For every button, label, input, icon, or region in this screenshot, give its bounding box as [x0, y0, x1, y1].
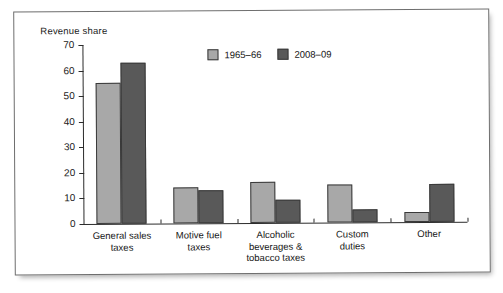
y-axis-tick-label: 10 [53, 194, 75, 204]
y-axis-tick-label: 60 [53, 66, 75, 76]
y-axis-line [82, 45, 84, 224]
x-axis-end-tick [467, 218, 468, 222]
y-axis-tick-mark [79, 71, 84, 72]
y-axis-tick-mark [79, 224, 84, 225]
bar [352, 209, 377, 222]
y-axis-title: Revenue share [40, 25, 107, 36]
bar [173, 188, 198, 224]
y-axis-tick-mark [79, 173, 84, 174]
x-axis-tick-mark [391, 218, 392, 222]
bar [96, 83, 122, 224]
legend-swatch-2008-09 [277, 49, 288, 60]
chart-plot-area: Revenue share 1965–66 2008–09 0102030405… [14, 10, 490, 275]
y-axis-tick-label: 30 [53, 142, 75, 152]
legend-swatch-1965-66 [207, 49, 218, 60]
category-label-line: Other [381, 228, 477, 240]
category-label-line: tobacco taxes [228, 252, 324, 264]
x-axis-tick-mark [237, 219, 238, 223]
chart-legend: 1965–66 2008–09 [207, 49, 331, 61]
legend-label-1965-66: 1965–66 [224, 49, 261, 60]
y-axis-tick-label: 0 [53, 219, 75, 229]
x-axis-category-labels: General salestaxesMotive fueltaxesAlcoho… [14, 10, 488, 13]
y-axis-tick-mark [79, 147, 84, 148]
x-axis-category-label: Other [381, 228, 477, 240]
y-axis-tick-mark [79, 96, 84, 97]
bar [327, 184, 352, 222]
legend-entry-series-2: 2008–09 [277, 49, 331, 60]
y-axis-tick-label: 20 [53, 168, 75, 178]
y-axis-tick-label: 40 [53, 117, 75, 127]
bar [198, 190, 223, 223]
y-axis-tick-label: 70 [52, 40, 74, 50]
x-axis-tick-mark [160, 220, 161, 224]
y-axis-tick-label: 50 [53, 91, 75, 101]
y-axis-tick-mark [78, 45, 83, 46]
legend-entry-series-1: 1965–66 [207, 49, 261, 60]
x-axis-tick-mark [314, 219, 315, 223]
bar [429, 183, 454, 221]
y-axis-tick-mark [79, 122, 84, 123]
bar [250, 182, 275, 223]
figure-frame: Revenue share 1965–66 2008–09 0102030405… [13, 9, 491, 276]
x-axis-ticks [14, 10, 488, 13]
bar [404, 212, 429, 222]
bar [121, 63, 147, 224]
y-axis-tick-mark [79, 198, 84, 199]
category-label-line: duties [304, 240, 400, 252]
bar-group-container [14, 10, 488, 13]
bar [275, 200, 300, 223]
y-axis-ticks: 010203040506070 [14, 10, 488, 13]
legend-label-2008-09: 2008–09 [294, 49, 331, 60]
